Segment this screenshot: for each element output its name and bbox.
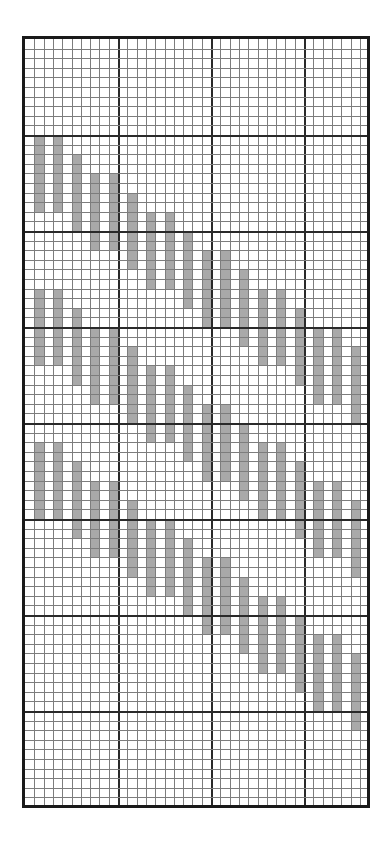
grid-line	[25, 346, 367, 347]
grid-line	[25, 471, 367, 472]
grid-line	[25, 173, 367, 174]
grid-line	[25, 586, 367, 587]
grid-line	[25, 442, 367, 443]
grid-line	[25, 778, 367, 779]
grid-line	[25, 500, 367, 501]
grid-line	[25, 279, 367, 280]
grid-line	[25, 433, 367, 434]
major-grid-line	[25, 423, 367, 425]
grid-line	[25, 241, 367, 242]
grid-line	[25, 567, 367, 568]
grid-line	[25, 49, 367, 50]
grid-line	[25, 87, 367, 88]
major-grid-line	[25, 135, 367, 137]
grid-line	[25, 269, 367, 270]
grid-line	[25, 673, 367, 674]
grid-line	[25, 250, 367, 251]
major-grid-line	[25, 711, 367, 713]
grid-line	[25, 356, 367, 357]
grid-line	[25, 730, 367, 731]
grid-line	[25, 509, 367, 510]
grid-line	[25, 193, 367, 194]
grid-line	[25, 769, 367, 770]
grid-line	[25, 317, 367, 318]
grid-line	[25, 298, 367, 299]
grid-line	[25, 58, 367, 59]
major-grid-line	[25, 327, 367, 329]
grid-line	[25, 749, 367, 750]
grid-line	[25, 605, 367, 606]
grid-line	[25, 577, 367, 578]
grid-line	[25, 106, 367, 107]
grid-line	[25, 164, 367, 165]
grid-line	[25, 682, 367, 683]
grid-line	[25, 557, 367, 558]
grid-line	[25, 797, 367, 798]
grid-line	[25, 385, 367, 386]
grid-line	[25, 596, 367, 597]
grid-line	[25, 701, 367, 702]
grid-line	[25, 116, 367, 117]
grid-line	[25, 490, 367, 491]
grid-line	[25, 625, 367, 626]
grid-line	[25, 125, 367, 126]
grid-line	[25, 394, 367, 395]
grid-line	[25, 221, 367, 222]
grid-line	[25, 337, 367, 338]
draft-grid-frame	[22, 36, 370, 808]
grid-line	[25, 308, 367, 309]
grid-line	[25, 289, 367, 290]
grid-line	[25, 644, 367, 645]
grid-line	[25, 183, 367, 184]
grid-line	[25, 413, 367, 414]
grid-line	[25, 788, 367, 789]
grid-line	[25, 212, 367, 213]
major-grid-line	[25, 231, 367, 233]
grid-line	[25, 538, 367, 539]
major-grid-line	[25, 519, 367, 521]
grid-line	[25, 260, 367, 261]
grid-line	[25, 663, 367, 664]
grid-line	[25, 404, 367, 405]
grid-line	[25, 68, 367, 69]
grid-line	[25, 548, 367, 549]
grid-line	[25, 461, 367, 462]
grid-line	[25, 154, 367, 155]
grid-line	[25, 653, 367, 654]
grid-line	[25, 145, 367, 146]
major-grid-line	[25, 615, 367, 617]
grid-line	[25, 481, 367, 482]
grid-line	[25, 529, 367, 530]
grid-line	[25, 97, 367, 98]
grid-line	[25, 452, 367, 453]
grid-line	[25, 759, 367, 760]
grid-line	[25, 77, 367, 78]
grid-line	[25, 740, 367, 741]
grid-line	[25, 692, 367, 693]
draft-grid	[25, 39, 367, 805]
grid-line	[25, 202, 367, 203]
grid-line	[25, 634, 367, 635]
grid-line	[25, 721, 367, 722]
grid-line	[25, 365, 367, 366]
grid-line	[25, 375, 367, 376]
